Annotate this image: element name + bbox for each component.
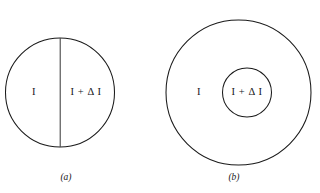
panel-b-inner-region-label: I + Δ I xyxy=(231,86,262,97)
panel-b-caption: (b) xyxy=(228,172,239,183)
panel-a-right-region-label: I + Δ I xyxy=(70,86,101,97)
panel-b-outer-region-label: I xyxy=(197,86,201,97)
panel-a-left-region-label: I xyxy=(32,86,36,97)
figure-container: I I + Δ I (a) I I + Δ I (b) xyxy=(0,0,320,193)
panel-b: I I + Δ I (b) xyxy=(166,20,311,183)
panel-a-caption: (a) xyxy=(60,172,71,183)
panel-a: I I + Δ I (a) xyxy=(6,38,115,183)
figure-canvas: I I + Δ I (a) I I + Δ I (b) xyxy=(0,0,320,193)
